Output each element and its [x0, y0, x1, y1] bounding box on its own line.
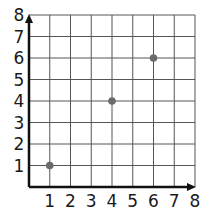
y-tick-label: 3 — [14, 113, 25, 133]
x-tick-label: 2 — [65, 191, 76, 211]
data-point — [108, 97, 116, 105]
x-tick-label: 4 — [107, 191, 118, 211]
y-tick-label: 4 — [14, 91, 25, 111]
y-axis-ticks: 12345678 — [14, 5, 25, 176]
data-points — [46, 54, 157, 169]
x-tick-label: 6 — [148, 191, 159, 211]
x-tick-label: 5 — [127, 191, 138, 211]
y-tick-label: 1 — [14, 156, 25, 176]
x-tick-label: 1 — [44, 191, 55, 211]
x-axis-ticks: 12345678 — [44, 191, 200, 211]
y-tick-label: 7 — [14, 27, 25, 47]
y-tick-label: 5 — [14, 70, 25, 90]
x-tick-label: 7 — [169, 191, 180, 211]
data-point — [46, 162, 54, 170]
x-tick-label: 8 — [190, 191, 201, 211]
scatter-chart: 12345678 12345678 — [0, 0, 207, 214]
data-point — [150, 54, 158, 62]
y-tick-label: 6 — [14, 48, 25, 68]
x-tick-label: 3 — [86, 191, 97, 211]
y-tick-label: 2 — [14, 134, 25, 154]
y-tick-label: 8 — [14, 5, 25, 25]
